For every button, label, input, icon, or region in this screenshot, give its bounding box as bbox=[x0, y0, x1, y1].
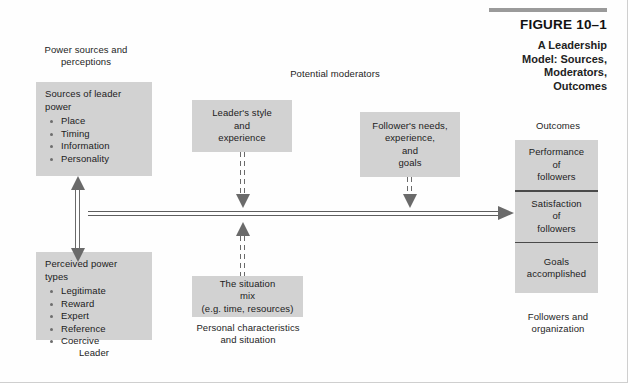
box-sources-title: Sources of leader power bbox=[36, 82, 152, 115]
box-outcomes-stack: Performance of followers Satisfaction of… bbox=[515, 140, 598, 293]
box-perceived-power-types: Perceived power types Legitimate Reward … bbox=[36, 252, 152, 340]
title-rule bbox=[489, 8, 607, 12]
arrowhead-down-icon bbox=[236, 194, 250, 208]
box-perceived-list: Legitimate Reward Expert Reference Coerc… bbox=[36, 285, 152, 348]
left-vertical-connector bbox=[75, 188, 80, 250]
outcome-satisfaction: Satisfaction of followers bbox=[515, 192, 598, 242]
connector-follower-needs-to-line bbox=[407, 177, 412, 194]
list-item: Expert bbox=[50, 310, 152, 323]
box-sources-of-leader-power: Sources of leader power Place Timing Inf… bbox=[36, 82, 152, 176]
label-power-sources: Power sources and perceptions bbox=[20, 44, 152, 68]
label-followers-organization: Followers and organization bbox=[512, 311, 604, 335]
box-perceived-title: Perceived power types bbox=[36, 252, 152, 285]
figure-title: A Leadership Model: Sources, Moderators,… bbox=[489, 39, 607, 93]
connector-situation-to-line bbox=[240, 236, 245, 276]
figure-diagram: FIGURE 10–1 A Leadership Model: Sources,… bbox=[0, 0, 628, 383]
arrowhead-down-icon bbox=[403, 194, 417, 208]
outcome-performance: Performance of followers bbox=[515, 140, 598, 190]
list-item: Coercive bbox=[50, 335, 152, 348]
outcome-goals: Goals accomplished bbox=[515, 243, 598, 293]
list-item: Timing bbox=[50, 128, 152, 141]
label-personal-characteristics: Personal characteristics and situation bbox=[178, 322, 318, 346]
list-item: Information bbox=[50, 140, 152, 153]
box-situation-mix: The situation mix (e.g. time, resources) bbox=[192, 276, 303, 317]
list-item: Legitimate bbox=[50, 285, 152, 298]
arrowhead-right-icon bbox=[498, 206, 514, 220]
label-leader: Leader bbox=[36, 347, 152, 359]
label-potential-moderators: Potential moderators bbox=[272, 68, 398, 80]
list-item: Reward bbox=[50, 298, 152, 311]
list-item: Place bbox=[50, 115, 152, 128]
arrowhead-up-icon bbox=[71, 176, 85, 190]
list-item: Reference bbox=[50, 323, 152, 336]
box-leaders-style: Leader's style and experience bbox=[192, 100, 292, 152]
arrowhead-up-icon bbox=[236, 222, 250, 236]
figure-number: FIGURE 10–1 bbox=[489, 17, 607, 32]
arrowhead-down-icon bbox=[71, 248, 85, 262]
label-outcomes: Outcomes bbox=[516, 120, 600, 132]
list-item: Personality bbox=[50, 153, 152, 166]
box-sources-list: Place Timing Information Personality bbox=[36, 115, 152, 165]
connector-leader-style-to-line bbox=[240, 152, 245, 194]
main-horizontal-connector bbox=[88, 211, 500, 216]
figure-title-block: FIGURE 10–1 A Leadership Model: Sources,… bbox=[489, 8, 607, 93]
box-followers-needs: Follower's needs, experience, and goals bbox=[360, 112, 460, 177]
